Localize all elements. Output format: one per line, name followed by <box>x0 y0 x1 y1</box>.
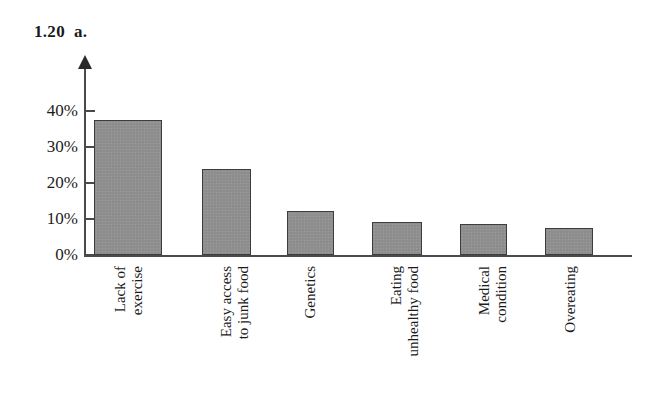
y-axis-tick-label-text: 30% <box>22 138 78 155</box>
category-label-line: Easy access <box>218 266 235 337</box>
figure-container: 1.20a. 0%10%20%30%40% Lack ofexerciseEas… <box>0 0 666 403</box>
category-label-line: Lack of <box>112 266 129 312</box>
category-label-line: unhealthy food <box>405 266 422 356</box>
x-axis-category-label: Medicalcondition <box>476 266 510 398</box>
y-axis-arrow-icon <box>78 55 92 69</box>
bar <box>372 222 422 255</box>
bar-chart-plot: 0%10%20%30%40% Lack ofexerciseEasy acces… <box>0 0 666 403</box>
category-label-line: Genetics <box>302 266 319 318</box>
category-label-line: Medical <box>476 266 493 315</box>
y-axis-tick-label: 0% <box>16 246 78 263</box>
y-axis-tick-label-text: 0% <box>22 246 78 263</box>
x-axis-category-label: Overeating <box>562 266 596 398</box>
category-label-line: exercise <box>129 266 146 315</box>
y-axis-tick-label-text: 10% <box>22 210 78 227</box>
x-axis-category-label: Genetics <box>302 266 336 398</box>
category-label-line: Overeating <box>562 266 579 333</box>
category-label-line: to junk food <box>235 266 252 339</box>
y-axis-tick-label: 20% <box>16 174 78 191</box>
y-axis-tick-label: 10% <box>16 210 78 227</box>
x-axis-category-label: Lack ofexercise <box>112 266 146 398</box>
x-axis-category-label: Eatingunhealthy food <box>388 266 422 398</box>
x-axis-category-label: Easy accessto junk food <box>218 266 252 398</box>
bar <box>202 169 251 255</box>
bar <box>94 120 162 255</box>
bar <box>460 224 507 255</box>
category-label-line: Eating <box>388 266 405 305</box>
x-axis-line <box>84 255 632 257</box>
y-axis-tick-label-text: 20% <box>22 174 78 191</box>
y-axis-tick-label: 40% <box>16 102 78 119</box>
y-axis-tick-label: 30% <box>16 138 78 155</box>
category-label-line: condition <box>493 266 510 323</box>
bar <box>287 211 334 255</box>
y-axis-line <box>84 66 86 257</box>
y-axis-tick <box>84 110 95 112</box>
bar <box>545 228 593 255</box>
y-axis-tick-label-text: 40% <box>22 102 78 119</box>
